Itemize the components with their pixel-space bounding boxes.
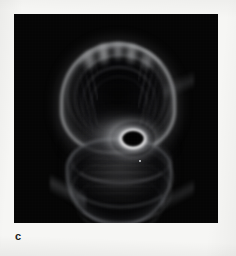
lower-right-wisp xyxy=(160,172,194,223)
upper-lobe-arc-3 xyxy=(82,66,156,138)
lower-lobe-band-1 xyxy=(70,136,172,184)
lower-lobe-striations xyxy=(68,144,170,222)
upper-lobe-arc-2 xyxy=(74,54,166,140)
upper-right-wisp xyxy=(164,58,194,120)
lower-lobe-glow xyxy=(62,134,178,223)
upper-lobe-striations-right xyxy=(138,52,180,144)
upper-lobe-cavity xyxy=(74,56,162,144)
field-star-point xyxy=(139,160,141,162)
lower-lobe-rim xyxy=(66,138,172,223)
figure-panel: c xyxy=(0,0,236,256)
upper-lobe-cap xyxy=(76,39,160,73)
lower-left-wisp xyxy=(50,164,86,222)
lower-lobe-band-2 xyxy=(68,148,174,208)
upper-lobe-rim xyxy=(60,42,176,154)
plate-grain-overlay xyxy=(14,14,218,223)
waist-glow xyxy=(78,106,160,160)
astronomical-image-plate[interactable] xyxy=(14,14,218,223)
central-bright-ring xyxy=(111,122,155,156)
central-dark-cavity xyxy=(122,131,144,146)
lower-lobe-band-4 xyxy=(76,176,164,223)
panel-label: c xyxy=(15,230,21,243)
upper-lobe-glow xyxy=(56,40,180,158)
upper-lobe-arc-1 xyxy=(66,44,174,143)
upper-lobe-arc-4 xyxy=(90,76,148,133)
lower-lobe-band-3 xyxy=(70,160,172,223)
upper-lobe-striations-left xyxy=(58,54,98,142)
